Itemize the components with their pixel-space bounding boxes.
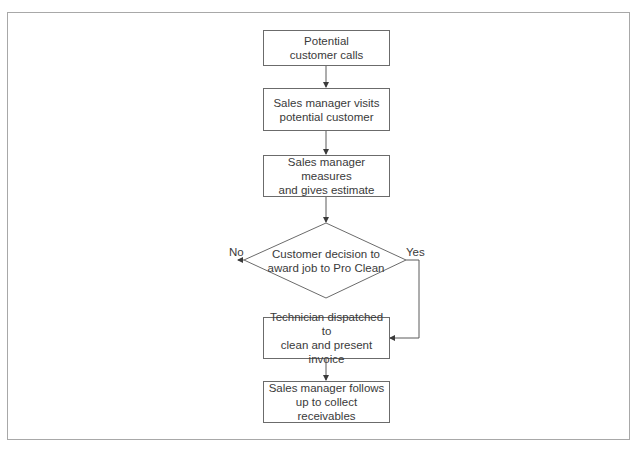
- node-technician-dispatched: Technician dispatched to clean and prese…: [263, 317, 390, 359]
- decision-label: Customer decision to award job to Pro Cl…: [256, 247, 396, 275]
- node-sales-manager-follows-up: Sales manager follows up to collect rece…: [263, 381, 390, 423]
- branch-label-no: No: [229, 246, 244, 258]
- node-label: Sales manager measures and gives estimat…: [267, 155, 386, 197]
- node-sales-manager-measures: Sales manager measures and gives estimat…: [263, 155, 390, 197]
- branch-label-yes: Yes: [406, 246, 425, 258]
- node-label: Potential customer calls: [290, 34, 364, 62]
- node-sales-manager-visits: Sales manager visits potential customer: [263, 88, 390, 131]
- node-label: Sales manager follows up to collect rece…: [267, 381, 386, 423]
- node-label: Sales manager visits potential customer: [273, 96, 379, 124]
- node-potential-customer-calls: Potential customer calls: [263, 30, 390, 66]
- node-label: Technician dispatched to clean and prese…: [267, 310, 386, 366]
